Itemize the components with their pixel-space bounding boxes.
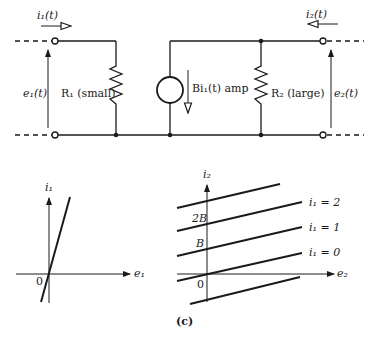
left-plot-y-label: i₁: [45, 181, 53, 194]
tick-2B-label: 2B: [191, 212, 207, 225]
panel-label: (c): [176, 315, 193, 328]
output-top-terminal: [320, 38, 326, 44]
curve-label-i1-1: i₁ = 1: [309, 221, 340, 234]
i2-label: i₂(t): [306, 8, 327, 21]
node-dot: [259, 133, 264, 138]
curve-label-i1-2: i₁ = 2: [309, 196, 340, 209]
input-characteristic-plot: [16, 197, 130, 303]
curve-label-i1-0: i₁ = 0: [309, 246, 340, 259]
circuit: [15, 24, 364, 138]
right-plot-origin-label: 0: [197, 278, 204, 291]
left-plot-origin-label: 0: [36, 275, 43, 288]
current-source-icon: [157, 77, 183, 103]
node-dot: [168, 133, 173, 138]
tick-B-label: B: [195, 237, 204, 250]
node-dot: [114, 133, 119, 138]
source-label: Bi₁(t) amp: [192, 82, 249, 95]
output-bottom-terminal: [320, 132, 326, 138]
right-plot-y-label: i₂: [203, 168, 211, 181]
right-plot-x-label: e₂: [337, 267, 348, 280]
curve-top: [177, 184, 280, 208]
curve-i1-0: [177, 253, 302, 281]
r2-label: R₂ (large): [271, 87, 325, 100]
r1-label: R₁ (small): [61, 87, 115, 100]
i1-label: i₁(t): [37, 9, 58, 22]
r2-resistor: [255, 41, 267, 135]
input-top-terminal: [52, 38, 58, 44]
e2-label: e₂(t): [334, 87, 358, 100]
left-plot-x-label: e₁: [134, 267, 145, 280]
node-dot: [259, 39, 264, 44]
input-bottom-terminal: [52, 132, 58, 138]
input-characteristic-line: [41, 197, 70, 302]
circuit-and-characteristics-figure: i₁(t) i₂(t) e₁(t) e₂(t) R₁ (small) Bi₁(t…: [0, 0, 374, 343]
e1-label: e₁(t): [23, 87, 47, 100]
